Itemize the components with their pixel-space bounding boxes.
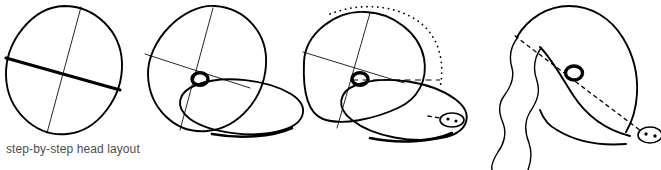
muzzle-ellipse [180, 79, 303, 134]
step-3-skull-contour [303, 7, 467, 142]
step-by-step-head-layout-figure: step-by-step head layout [0, 0, 661, 170]
jaw-line [540, 110, 557, 130]
nose-ring [440, 113, 464, 127]
dashed-guideline [515, 36, 641, 131]
cranium-circle [148, 6, 266, 131]
nostril-right [454, 119, 457, 122]
figure-caption: step-by-step head layout [6, 142, 140, 156]
nostril-left [644, 132, 647, 135]
vertical-axis-light [180, 8, 213, 130]
muzzle-top-line [540, 47, 630, 136]
horizontal-axis-light [145, 54, 250, 88]
vertical-axis-light [337, 13, 370, 128]
nostril-right [653, 134, 656, 137]
nostril-left [446, 117, 449, 120]
ear-inner-fold [526, 48, 541, 170]
nose-guide-dash [428, 116, 440, 118]
eye-ring [566, 66, 583, 80]
ear-outline [492, 37, 518, 170]
nose-ring [638, 127, 661, 143]
skull-contour [304, 12, 425, 122]
step-4-finished-head [492, 6, 661, 170]
step-2-muzzle-block-in [145, 6, 303, 137]
step-1-cranium-circle [6, 6, 122, 134]
muzzle-ellipse [341, 80, 467, 140]
